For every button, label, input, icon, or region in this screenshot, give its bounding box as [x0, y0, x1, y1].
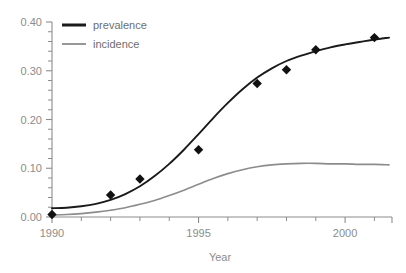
series-line-prevalence [52, 38, 389, 209]
chart-legend: prevalenceincidence [62, 19, 147, 50]
x-axis-group: 199019952000 Year [40, 217, 392, 263]
y-axis-tick-label: 0.20 [21, 114, 42, 126]
x-axis-tick-labels: 199019952000 [40, 227, 358, 239]
data-point-marker [47, 210, 56, 219]
y-axis-tick-label: 0.10 [21, 162, 42, 174]
y-axis-tick-label: 0.30 [21, 65, 42, 77]
x-axis-minor-ticks [81, 217, 374, 221]
series-line-incidence [52, 163, 389, 215]
y-axis-tick-label: 0.00 [21, 211, 42, 223]
y-axis-tick-label: 0.40 [21, 16, 42, 28]
legend-label-incidence: incidence [93, 38, 139, 50]
x-axis-title: Year [209, 251, 232, 263]
data-series-layer [52, 38, 389, 215]
data-markers-layer [47, 33, 379, 219]
x-axis-major-ticks [52, 217, 392, 223]
data-point-marker [282, 65, 291, 74]
data-point-marker [194, 145, 203, 154]
chart-plot-area: 0.000.100.200.300.40 199019952000 Year p… [0, 0, 406, 273]
data-point-marker [135, 174, 144, 183]
legend-label-prevalence: prevalence [93, 19, 147, 31]
x-axis-tick-label: 2000 [333, 227, 357, 239]
x-axis-tick-label: 1995 [186, 227, 210, 239]
y-axis-tick-labels: 0.000.100.200.300.40 [21, 16, 42, 223]
y-axis-group: 0.000.100.200.300.40 [21, 16, 52, 223]
x-axis-tick-label: 1990 [40, 227, 64, 239]
chart-figure: 0.000.100.200.300.40 199019952000 Year p… [0, 0, 406, 273]
